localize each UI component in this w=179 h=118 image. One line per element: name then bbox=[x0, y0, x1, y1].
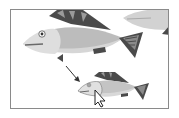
drag-arrow-icon bbox=[66, 66, 80, 82]
artboard[interactable] bbox=[10, 9, 169, 109]
partial-fish-top-right[interactable] bbox=[123, 10, 168, 35]
artwork-layer bbox=[11, 10, 168, 108]
small-fish-copy[interactable] bbox=[78, 72, 149, 100]
